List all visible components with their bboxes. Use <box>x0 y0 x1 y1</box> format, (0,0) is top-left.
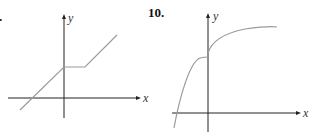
function-curve-left <box>174 57 208 128</box>
x-axis-label: x <box>143 92 148 104</box>
y-axis-label: y <box>213 10 218 22</box>
x-axis-arrow-icon <box>136 96 141 100</box>
function-curve-right <box>208 27 277 53</box>
x-axis-arrow-icon <box>296 111 301 115</box>
y-axis-label: y <box>68 12 73 24</box>
y-axis-arrow-icon <box>206 13 210 18</box>
function-curve <box>20 35 117 110</box>
y-axis-arrow-icon <box>62 14 66 19</box>
problem-10-number: 10. <box>148 6 164 19</box>
graph-9 <box>0 0 155 137</box>
x-axis-label: x <box>303 107 308 119</box>
